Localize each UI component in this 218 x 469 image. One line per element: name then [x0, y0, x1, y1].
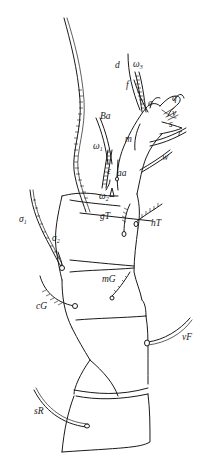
seta-m — [135, 124, 140, 150]
label-cG: cG — [36, 301, 47, 311]
label-vF: vF — [182, 332, 192, 342]
leg-diagram: d ω3 f e q v s r w m Ba ω1 ε aa ω2 gT hT… — [0, 0, 218, 469]
label-d: d — [115, 60, 120, 70]
trochanter-segment — [62, 394, 150, 452]
label-m: m — [125, 134, 132, 144]
seta-gT — [122, 204, 130, 237]
label-epsilon: ε — [107, 166, 111, 176]
label-sigma2: σ2 — [52, 233, 60, 244]
tibia-segment — [55, 193, 152, 280]
label-sR: sR — [34, 406, 44, 416]
label-aa: aa — [117, 168, 127, 178]
label-omega1: ω1 — [93, 141, 103, 152]
label-omega3: ω3 — [133, 59, 143, 70]
label-sigma1: σ1 — [19, 214, 27, 225]
solenidion-omega2 — [110, 188, 114, 196]
label-mG: mG — [102, 274, 116, 284]
label-Ba: Ba — [100, 111, 111, 121]
solenidion-sigma1 — [64, 18, 90, 212]
label-omega2: ω2 — [99, 191, 109, 202]
label-f: f — [126, 80, 130, 90]
label-r: r — [178, 128, 182, 138]
label-hT: hT — [151, 218, 162, 228]
label-e: e — [148, 98, 152, 108]
label-q: q — [172, 93, 177, 103]
label-gT: gT — [100, 211, 111, 221]
solenidion-sigma2 — [30, 190, 64, 268]
label-v: v — [172, 108, 177, 118]
femur-segment — [72, 316, 148, 399]
seta-Ba-2 — [100, 118, 112, 164]
label-w: w — [162, 152, 169, 162]
label-s: s — [169, 119, 173, 129]
